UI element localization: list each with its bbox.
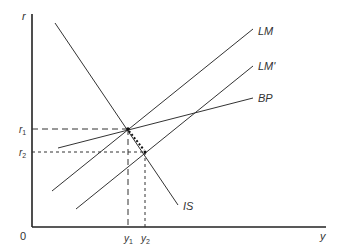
r1-label: r1 bbox=[19, 124, 26, 136]
lm-label: LM bbox=[258, 25, 274, 37]
equilibrium-point-2 bbox=[144, 151, 147, 154]
y-axis-label: r bbox=[22, 10, 27, 22]
y2-label: y2 bbox=[140, 233, 150, 245]
islm-bp-diagram: r y 0 LM LM' BP IS r1 r2 y1 y2 bbox=[0, 0, 362, 251]
y1-label: y1 bbox=[123, 233, 133, 245]
bp-curve bbox=[58, 98, 253, 148]
x-axis-label: y bbox=[319, 230, 327, 242]
adjustment-path bbox=[129, 131, 144, 150]
is-curve bbox=[55, 23, 178, 205]
lm-prime-label: LM' bbox=[258, 60, 276, 72]
is-label: IS bbox=[183, 200, 194, 212]
bp-label: BP bbox=[258, 92, 273, 104]
r2-label: r2 bbox=[19, 147, 26, 159]
lm-prime-curve bbox=[76, 66, 253, 209]
origin-label: 0 bbox=[20, 230, 26, 242]
equilibrium-point-1 bbox=[126, 127, 130, 131]
